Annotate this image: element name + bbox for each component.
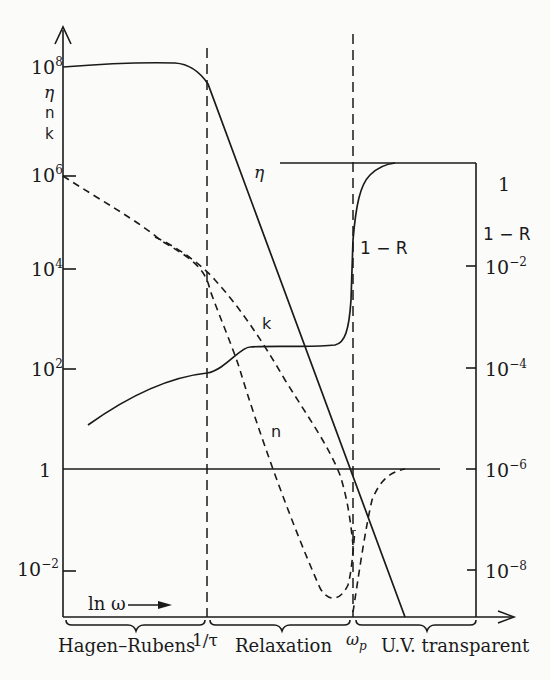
svg-text:10−6: 10−6 (485, 458, 527, 481)
curve-labels: η k n 1 − R (254, 162, 408, 441)
svg-text:Hagen–Rubens: Hagen–Rubens (58, 635, 195, 656)
arrow-icon (158, 601, 172, 609)
svg-text:1: 1 (498, 173, 510, 195)
svg-text:106: 106 (31, 163, 63, 186)
svg-text:n: n (271, 422, 281, 441)
n-curve (63, 176, 355, 598)
region-labels: Hagen–Rubens 1/τ Relaxation ωp U.V. tran… (58, 630, 530, 656)
left-ticks (63, 176, 76, 571)
svg-text:1: 1 (39, 459, 51, 481)
right-ticks (466, 266, 476, 570)
svg-text:104: 104 (31, 257, 63, 280)
svg-text:Relaxation: Relaxation (235, 635, 332, 656)
left-tick-labels: 108 106 104 102 1 10−2 (17, 55, 63, 580)
x-axis-label: ln ω (88, 593, 172, 614)
svg-text:102: 102 (31, 357, 63, 380)
svg-text:U.V. transparent: U.V. transparent (381, 635, 530, 656)
plasma-marker-label: ωp (346, 630, 367, 653)
svg-text:10−2: 10−2 (17, 557, 59, 580)
n-recovery-curve (353, 469, 405, 612)
left-axis-labels: η n k (44, 82, 55, 143)
svg-text:1 − R: 1 − R (360, 238, 408, 258)
svg-text:10−8: 10−8 (485, 559, 527, 582)
svg-text:n: n (45, 104, 55, 122)
axes (55, 27, 514, 623)
chart: 108 106 104 102 1 10−2 η n k 1 1 − R 10−… (0, 0, 550, 680)
relaxation-marker-label: 1/τ (192, 630, 218, 650)
svg-text:k: k (262, 314, 272, 333)
svg-text:1 − R: 1 − R (483, 224, 531, 244)
right-tick-labels: 1 1 − R 10−2 10−4 10−6 10−8 (483, 173, 531, 582)
svg-text:ln ω: ln ω (88, 593, 126, 614)
svg-text:10−4: 10−4 (485, 357, 527, 380)
svg-text:k: k (45, 125, 54, 143)
k-dashed-extension (155, 237, 353, 545)
svg-text:108: 108 (31, 55, 63, 78)
region-braces (66, 620, 476, 631)
k-curve (88, 163, 395, 425)
svg-text:η: η (254, 162, 265, 182)
svg-text:10−2: 10−2 (485, 255, 527, 278)
svg-text:η: η (44, 82, 55, 102)
